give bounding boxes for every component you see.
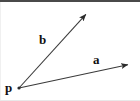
vector-a-label: a [93,53,100,66]
bottom-border-edge [0,100,140,101]
vector-a-arrow [19,65,128,88]
vector-diagram-figure: b a p [0,0,140,101]
vector-b-arrow [19,14,86,88]
origin-point-dot [17,86,20,89]
vector-canvas [0,0,140,101]
vector-b-label: b [39,33,46,46]
origin-point-label: p [5,81,12,94]
